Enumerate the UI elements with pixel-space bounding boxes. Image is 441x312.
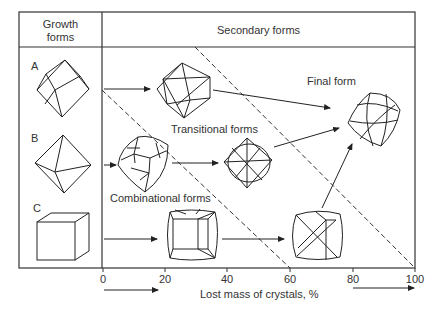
tick-0: 0	[93, 273, 113, 286]
growth-forms-header-line2: forms	[19, 31, 102, 44]
tick-80: 80	[343, 273, 363, 286]
crystal-c-growth-icon	[37, 213, 89, 260]
row-label-c: C	[33, 202, 41, 215]
transitional-forms-label: Transitional forms	[171, 123, 258, 136]
final-form-label: Final form	[307, 75, 356, 88]
crystal-b-growth-icon	[35, 135, 91, 193]
crystal-c-transitional-icon	[293, 211, 343, 260]
tick-60: 60	[280, 273, 300, 286]
crystal-final-form-icon	[348, 93, 400, 146]
growth-forms-header: Growth forms	[19, 18, 102, 44]
tick-100: 100	[402, 273, 428, 286]
combinational-forms-label: Combinational forms	[110, 192, 211, 205]
row-label-a: A	[31, 60, 38, 73]
tick-20: 20	[155, 273, 175, 286]
tick-40: 40	[217, 273, 237, 286]
secondary-forms-header: Secondary forms	[102, 24, 415, 37]
crystal-b-transitional-icon	[224, 138, 272, 188]
crystal-dissolution-diagram	[0, 0, 441, 312]
growth-forms-header-line1: Growth	[19, 18, 102, 31]
crystal-a-growth-icon	[37, 60, 89, 117]
axis-label: Lost mass of crystals, %	[200, 288, 319, 301]
crystal-a-secondary-icon	[157, 63, 210, 118]
row-label-b: B	[31, 132, 38, 145]
crystal-c-combinational-icon	[168, 209, 218, 260]
